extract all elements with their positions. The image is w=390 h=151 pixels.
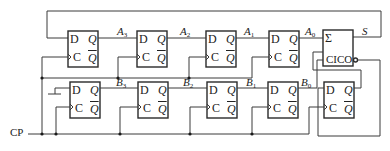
pin-d: D: [270, 84, 279, 96]
pin-qbar: Q: [90, 103, 99, 115]
label-a0: A0: [305, 26, 315, 39]
pin-c: C: [212, 102, 220, 114]
label-b0: B0: [301, 77, 311, 90]
pin-d: D: [140, 84, 149, 96]
pin-c: C: [73, 51, 81, 63]
pin-qbar: Q: [289, 52, 298, 64]
clock-input-label: CP: [10, 127, 23, 138]
pin-qbar: Q: [344, 103, 353, 115]
pin-q: Q: [157, 33, 166, 45]
pin-q: Q: [227, 84, 236, 96]
label-b1: B1: [246, 77, 256, 90]
adder-carry-label: CICO: [326, 54, 352, 65]
pin-d: D: [271, 33, 280, 45]
pin-qbar: Q: [157, 52, 166, 64]
pin-c: C: [211, 51, 219, 63]
circuit-wiring: [0, 0, 390, 151]
label-a2: A2: [180, 26, 190, 39]
label-a3: A3: [117, 26, 127, 39]
pin-c: C: [75, 102, 83, 114]
carry-out-bubble: [354, 58, 358, 62]
adder-sum-symbol: Σ: [325, 32, 332, 44]
pin-d: D: [139, 33, 148, 45]
serial-adder-circuit: D Q C Q D Q C Q D Q C Q D Q C Q Σ CICO A…: [0, 0, 390, 151]
pin-c: C: [273, 102, 281, 114]
pin-q: Q: [226, 33, 235, 45]
pin-d: D: [209, 84, 218, 96]
pin-d: D: [70, 33, 79, 45]
pin-qbar: Q: [226, 52, 235, 64]
pin-qbar: Q: [158, 103, 167, 115]
pin-qbar: Q: [288, 103, 297, 115]
pin-q: Q: [90, 84, 99, 96]
pin-d: D: [208, 33, 217, 45]
pin-d: D: [72, 84, 81, 96]
label-b2: B2: [183, 77, 193, 90]
pin-qbar: Q: [88, 52, 97, 64]
pin-q: Q: [288, 84, 297, 96]
pin-c: C: [142, 51, 150, 63]
pin-qbar: Q: [227, 103, 236, 115]
pin-c: C: [329, 102, 337, 114]
pin-c: C: [274, 51, 282, 63]
pin-q: Q: [344, 84, 353, 96]
pin-c: C: [143, 102, 151, 114]
pin-d: D: [326, 84, 335, 96]
label-a1: A1: [244, 26, 254, 39]
label-b3: B3: [116, 77, 126, 90]
sum-output-label: S: [362, 26, 368, 37]
pin-q: Q: [289, 33, 298, 45]
pin-q: Q: [158, 84, 167, 96]
pin-q: Q: [88, 33, 97, 45]
